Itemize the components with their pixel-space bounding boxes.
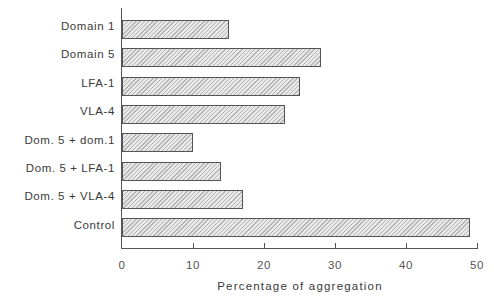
x-axis-title: Percentage of aggregation: [217, 280, 383, 292]
bar: [122, 162, 221, 181]
bar: [122, 20, 229, 39]
category-label: LFA-1: [81, 77, 115, 89]
x-tick-label: 20: [257, 259, 271, 271]
x-tick-label: 0: [119, 259, 126, 271]
x-tick-label: 50: [470, 259, 484, 271]
category-label: Control: [74, 219, 115, 231]
bar: [122, 48, 321, 67]
bar: [122, 133, 193, 152]
horizontal-bar-chart: Domain 1 Domain 5 LFA-1 VLA-4 Dom. 5 + d…: [0, 0, 494, 303]
bar: [122, 190, 243, 209]
bar: [122, 105, 285, 124]
category-label: Domain 1: [61, 20, 115, 32]
category-label: Domain 5: [61, 48, 115, 60]
category-label: VLA-4: [80, 105, 115, 117]
bar: [122, 77, 300, 96]
x-tick-label: 30: [328, 259, 342, 271]
x-tick: [264, 243, 265, 248]
x-axis: [121, 248, 478, 249]
x-tick: [193, 243, 194, 248]
y-axis: [121, 8, 122, 249]
x-tick-label: 10: [186, 259, 200, 271]
category-label: Dom. 5 + dom.1: [24, 134, 115, 146]
x-tick: [335, 243, 336, 248]
category-label: Dom. 5 + VLA-4: [24, 190, 115, 202]
bar: [122, 218, 470, 237]
x-tick: [406, 243, 407, 248]
x-tick-label: 40: [399, 259, 413, 271]
x-tick: [477, 243, 478, 248]
category-label: Dom. 5 + LFA-1: [26, 162, 115, 174]
